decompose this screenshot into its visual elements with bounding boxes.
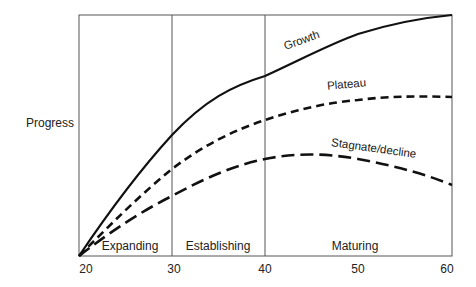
y-axis-label: Progress [26, 116, 74, 130]
zone-label-maturing: Maturing [332, 239, 379, 253]
x-tick-60: 60 [440, 262, 453, 276]
zone-label-expanding: Expanding [102, 239, 159, 253]
x-tick-40: 40 [258, 262, 271, 276]
x-tick-20: 20 [79, 262, 92, 276]
x-tick-30: 30 [167, 262, 180, 276]
zone-label-establishing: Establishing [186, 239, 251, 253]
x-tick-50: 50 [351, 262, 364, 276]
